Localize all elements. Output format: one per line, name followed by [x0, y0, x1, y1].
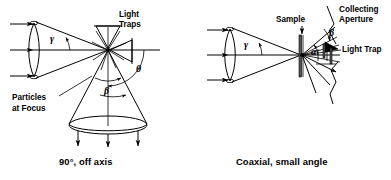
figure-root: γ — [0, 0, 391, 180]
light-traps-label-line2: Traps — [119, 20, 141, 29]
gamma-label-left: γ — [50, 33, 55, 44]
gamma-angle-right: γ — [244, 39, 262, 55]
beta-label-left: β — [103, 85, 110, 96]
particles-at-focus-line1: Particles — [12, 93, 47, 102]
input-beam-arrows — [10, 24, 33, 76]
caption-left: 90°, off axis — [59, 156, 113, 167]
beta-angle-left: β — [95, 78, 126, 97]
caption-right: Coaxial, small angle — [236, 156, 328, 167]
panel-right: γ Sample — [207, 5, 382, 167]
collecting-aperture-line2: Aperture — [339, 15, 374, 24]
light-traps-label-group-left: Light Traps — [119, 10, 141, 29]
scattering-diagram-svg: γ — [0, 0, 391, 180]
particles-at-focus-group-left: Particles at Focus — [12, 76, 92, 113]
gamma-angle-left: γ — [50, 33, 70, 50]
output-arrows-left — [78, 131, 138, 147]
focal-ray-fan-left — [92, 27, 126, 70]
light-traps-label-line1: Light — [119, 10, 139, 19]
gamma-label-right: γ — [244, 39, 249, 50]
collecting-aperture-label-group: Collecting Aperture — [339, 5, 379, 24]
panel-left: γ — [10, 10, 160, 167]
alpha-label-right: α — [311, 46, 317, 57]
sample-label-group: Sample — [276, 15, 306, 34]
collecting-aperture-line1: Collecting — [339, 5, 379, 14]
particles-at-focus-line2: at Focus — [12, 104, 46, 113]
theta-label-left: θ — [136, 63, 142, 74]
light-trap-label: Light Trap — [342, 45, 382, 54]
beta-label-right: β — [328, 27, 335, 38]
sample-label: Sample — [276, 15, 306, 24]
